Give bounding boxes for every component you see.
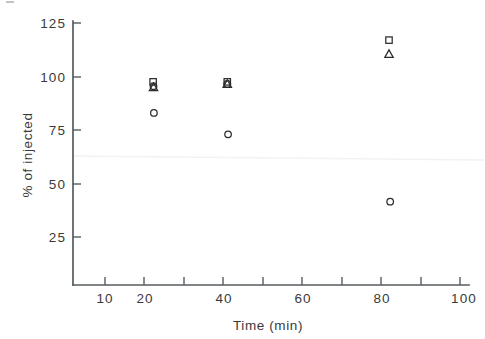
x-tick-label-10: 10 bbox=[96, 291, 113, 306]
x-tick-label-80: 80 bbox=[373, 291, 390, 306]
y-tick-label-100: 100 bbox=[40, 70, 66, 85]
y-tick-label-125: 125 bbox=[40, 16, 66, 31]
x-tick-label-100: 100 bbox=[451, 291, 477, 306]
y-tick-label-75: 75 bbox=[49, 123, 66, 138]
x-tick-label-60: 60 bbox=[294, 291, 311, 306]
x-axis-title: Time (min) bbox=[233, 318, 303, 333]
x-tick-label-20: 20 bbox=[136, 291, 153, 306]
chart-canvas: 125 100 75 50 25 % of injected 10 20 40 bbox=[0, 0, 485, 339]
y-axis-title: % of injected bbox=[20, 112, 35, 197]
y-tick-label-25: 25 bbox=[49, 230, 66, 245]
x-tick-label-40: 40 bbox=[215, 291, 232, 306]
y-tick-label-50: 50 bbox=[49, 177, 66, 192]
scatter-chart-figure: 125 100 75 50 25 % of injected 10 20 40 bbox=[0, 0, 485, 339]
